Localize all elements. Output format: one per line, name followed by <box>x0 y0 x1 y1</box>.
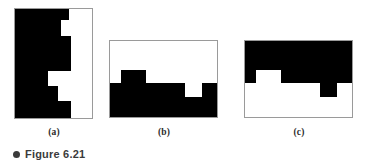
figure-panel-b <box>109 40 218 118</box>
panel-a-label: (a) <box>24 126 84 138</box>
figure-6-21: (a) (b) (c) Figure 6.21 <box>0 0 372 167</box>
panel-c-label: (c) <box>269 126 329 138</box>
panel-b-graphic <box>109 40 218 118</box>
bullet-dot-icon <box>13 151 20 158</box>
figure-panel-a <box>14 8 93 119</box>
panel-c-graphic <box>244 40 353 118</box>
panel-b-label: (b) <box>134 126 194 138</box>
panel-a-graphic <box>14 8 93 119</box>
figure-panel-c <box>244 40 353 118</box>
figure-caption: Figure 6.21 <box>13 148 85 160</box>
figure-caption-text: Figure 6.21 <box>25 148 85 160</box>
